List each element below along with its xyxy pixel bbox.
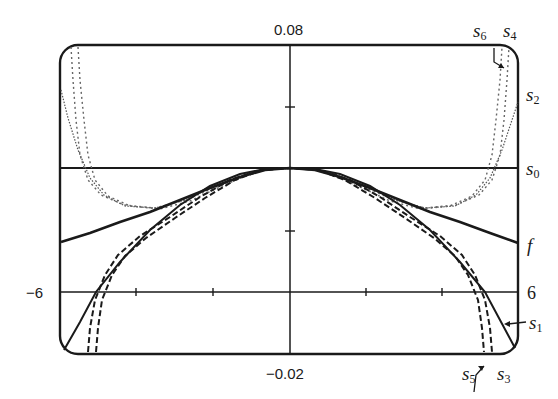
y-top-label: 0.08 (274, 22, 303, 37)
label-s4: s4 (503, 21, 516, 42)
x-left-label: −6 (26, 285, 43, 300)
taylor-plot (0, 0, 558, 399)
plot-frame (60, 45, 518, 354)
label-s5: s5 (462, 364, 475, 385)
label-s2: s2 (526, 85, 539, 106)
y-bottom-label: −0.02 (266, 366, 304, 381)
label-f: f (527, 236, 532, 255)
s5-pointer-arrow (474, 366, 484, 392)
label-s3: s3 (497, 364, 510, 385)
s6-pointer-arrow (494, 48, 504, 68)
x-right-label: 6 (527, 284, 536, 302)
label-s6: s6 (473, 21, 486, 42)
s1-arrowhead (504, 321, 510, 327)
label-s0: s0 (526, 159, 539, 180)
label-s1: s1 (529, 313, 542, 334)
